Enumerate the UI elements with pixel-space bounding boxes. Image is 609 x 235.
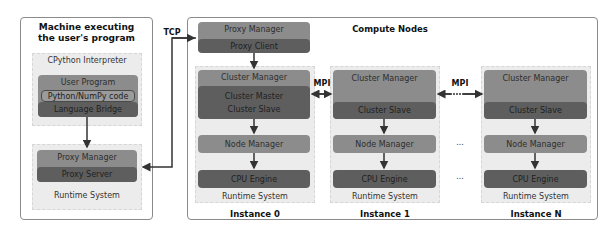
connector-arrows [0,0,609,235]
